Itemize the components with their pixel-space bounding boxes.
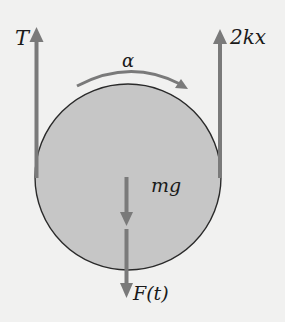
- weight-label: mg: [151, 174, 181, 196]
- alpha-label: α: [122, 50, 134, 71]
- spring-force-label: 2kx: [229, 25, 266, 49]
- tension-label: T: [15, 26, 31, 50]
- free-body-diagram: T 2kx α mg F(t): [0, 0, 285, 322]
- applied-force-label: F(t): [132, 282, 169, 304]
